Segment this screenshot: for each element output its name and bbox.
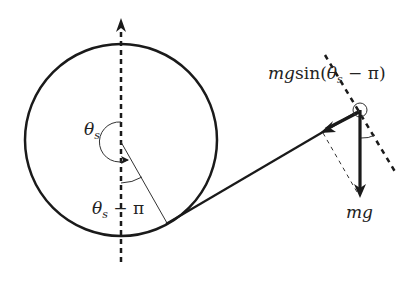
theta-symbol: θ [84, 119, 94, 139]
minus-pi-close: − π) [343, 63, 386, 83]
label-tangential-force: mgsin(θs − π) [268, 63, 386, 86]
sin-text: sin [295, 63, 320, 83]
vertical-axis [116, 18, 126, 262]
open-paren: ( [320, 63, 327, 83]
arrowhead-left-icon [320, 121, 336, 133]
minus-pi-text: − π [108, 198, 144, 218]
diagram-graphics [0, 0, 418, 283]
theta-subscript: s [94, 129, 100, 142]
pendulum-diagram: θs θs − π mgsin(θs − π) mg [0, 0, 418, 283]
theta-symbol: θ [327, 63, 337, 83]
mg-text: mg [346, 202, 373, 222]
label-theta-s-minus-pi: θs − π [92, 198, 144, 221]
theta-s-minus-pi-arc [121, 177, 142, 183]
arrowhead-up-icon [116, 18, 126, 32]
mg-text: mg [268, 63, 295, 83]
theta-symbol: θ [92, 198, 102, 218]
theta-s-arc [99, 122, 128, 162]
label-weight: mg [346, 202, 373, 222]
label-theta-s: θs [84, 119, 100, 142]
projection-dashed-line [323, 133, 357, 192]
